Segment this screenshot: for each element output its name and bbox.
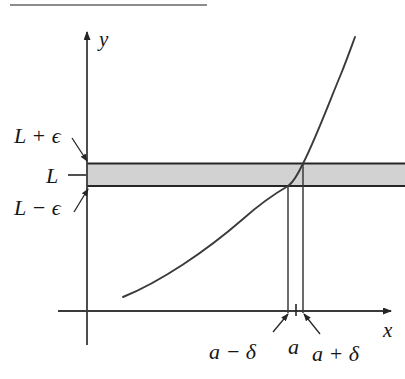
limit-definition-figure: L + ϵ L L − ϵ a − δ a a + δ x y <box>0 0 405 379</box>
label-l-plus-epsilon: L + ϵ <box>13 123 62 148</box>
leader-line-l-plus-epsilon <box>72 138 87 161</box>
label-l-minus-epsilon: L − ϵ <box>13 195 62 220</box>
label-a-plus-delta: a + δ <box>312 341 360 366</box>
leader-line-l-minus-epsilon <box>74 189 88 212</box>
epsilon-band-fill <box>87 164 405 187</box>
axis-label-y: y <box>97 27 109 51</box>
leader-line-a-plus-delta <box>304 314 320 334</box>
label-a-minus-delta: a − δ <box>209 339 257 364</box>
label-a: a <box>288 334 299 359</box>
axis-label-x: x <box>382 318 393 342</box>
label-l: L <box>45 163 58 188</box>
leader-line-a-minus-delta <box>273 314 288 332</box>
figure-canvas: L + ϵ L L − ϵ a − δ a a + δ x y <box>0 0 405 379</box>
